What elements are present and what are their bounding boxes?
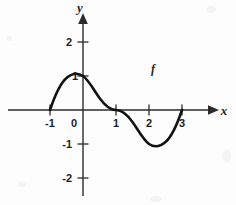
origin-label: 0 [71,117,77,129]
x-tick-label-3: 3 [179,117,185,129]
graph-figure: -1 1 2 3 0 2 1 -1 -2 x y f [0,0,236,205]
x-tick-label-1: 1 [113,117,119,129]
y-tick-label--2: -2 [62,172,72,184]
y-tick-label-1: 1 [72,70,78,82]
x-axis-arrow-icon [208,105,219,115]
curve-label: f [151,62,156,76]
y-tick-label--1: -1 [62,138,72,150]
y-axis-label: y [75,0,83,15]
y-tick-label-2: 2 [66,36,72,48]
cartesian-plot: -1 1 2 3 0 2 1 -1 -2 x y f [0,0,236,205]
x-tick-label-2: 2 [146,117,152,129]
x-axis-label: x [220,103,228,118]
x-tick-label--1: -1 [45,117,55,129]
